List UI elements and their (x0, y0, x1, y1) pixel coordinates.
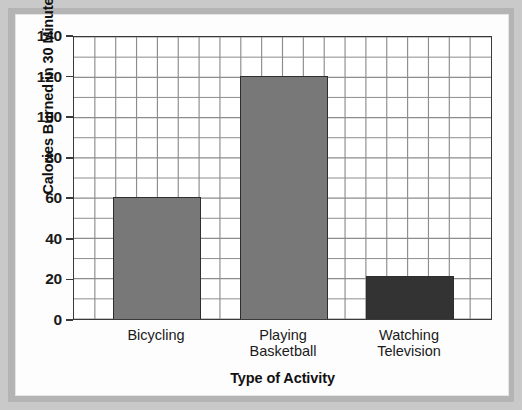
y-axis-title: Calories Burned in 30 Minutes (40, 0, 56, 202)
y-axis-tick-mark (66, 279, 73, 281)
y-axis-tick-mark (66, 157, 73, 159)
scanned-page: 020406080100120140 Calories Burned in 30… (0, 0, 522, 410)
bar (113, 197, 201, 319)
bar (240, 76, 328, 319)
plot-area (73, 36, 492, 320)
y-axis-tick-mark (66, 76, 73, 78)
x-axis-title: Type of Activity (73, 370, 492, 386)
y-axis-tick-label: 40 (10, 230, 62, 248)
y-axis-tick-mark (66, 319, 73, 321)
y-axis-tick-mark (66, 35, 73, 37)
y-axis-tick-label: 20 (10, 270, 62, 288)
y-axis-tick-label: 0 (10, 311, 62, 329)
bar (366, 276, 454, 319)
bar-chart: 020406080100120140 Calories Burned in 30… (0, 0, 522, 410)
y-axis-tick-mark (66, 116, 73, 118)
y-axis-tick-mark (66, 197, 73, 199)
x-axis-tick-label: Watching Television (334, 327, 484, 359)
y-axis-tick-mark (66, 238, 73, 240)
